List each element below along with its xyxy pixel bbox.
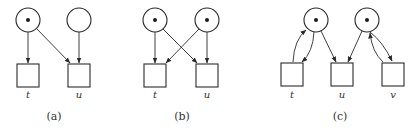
transition-t [281,63,303,86]
transition-label-t: t [290,89,295,100]
token [153,18,157,22]
arc-p2-t [166,29,199,63]
panel-a: t u (a) [16,8,91,123]
transition-label-u: u [339,89,345,100]
transition-t [144,64,166,87]
place-p2 [67,8,91,32]
arc-p1-t [302,32,314,62]
caption-c: (c) [333,110,348,123]
transition-label-t: t [26,89,31,100]
arc-p1-u [321,31,336,62]
transition-label-u: u [204,89,210,100]
transition-u [196,64,218,87]
transition-u [331,63,353,86]
panel-b: t u (b) [143,8,219,123]
transition-t [17,64,39,87]
transition-u [68,64,90,87]
arc-p1-u [163,29,197,63]
transition-label-v: v [390,89,396,100]
transition-v [382,63,404,86]
caption-a: (a) [46,110,61,123]
token [205,18,209,22]
token [365,18,369,22]
arc-p2-u [348,31,362,62]
caption-b: (b) [174,110,190,123]
arc-p1-u [37,29,70,63]
token [26,18,30,22]
transition-label-u: u [76,89,82,100]
transition-label-t: t [153,89,158,100]
token [314,18,318,22]
arc-t-p1 [293,30,306,62]
petri-net-figure: t u (a) t u (b) t u v (c) [0,0,416,131]
panel-c: t u v (c) [281,8,404,123]
